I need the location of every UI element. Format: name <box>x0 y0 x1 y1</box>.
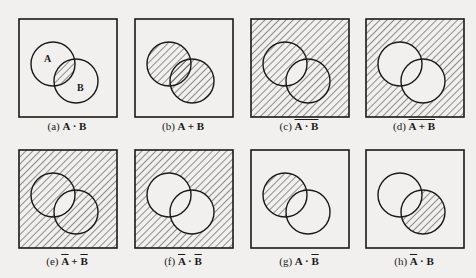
venn-svg-a: A B <box>18 18 118 118</box>
circle-label-b: B <box>77 82 84 93</box>
caption-prefix: (g) <box>279 255 295 267</box>
venn-panel-h <box>365 149 465 249</box>
venn-svg-g <box>250 149 350 249</box>
caption-expression: A + B <box>178 120 204 132</box>
caption-prefix: (e) <box>46 255 61 267</box>
caption-prefix: (a) <box>48 120 63 132</box>
venn-svg-c <box>250 18 350 118</box>
caption-prefix: (h) <box>394 255 410 267</box>
caption-prefix: (b) <box>162 120 178 132</box>
caption-prefix: (c) <box>280 120 295 132</box>
panel-caption-b: (b) A + B <box>133 120 233 132</box>
venn-panel-b <box>134 18 234 118</box>
panel-caption-g: (g) A · B <box>249 255 349 267</box>
venn-panel-f <box>134 149 234 249</box>
caption-expression: A + B <box>409 120 435 132</box>
caption-expression: A + B <box>61 255 87 267</box>
caption-expression: A · B <box>63 120 87 132</box>
venn-panel-c <box>250 18 350 118</box>
caption-prefix: (d) <box>393 120 409 132</box>
caption-expression: A · B <box>295 255 319 267</box>
caption-prefix: (f) <box>164 255 178 267</box>
panel-caption-a: (a) A · B <box>17 120 117 132</box>
venn-panel-g <box>250 149 350 249</box>
venn-panel-a: A B <box>18 18 118 118</box>
venn-svg-h <box>365 149 465 249</box>
caption-expression: A · B <box>178 255 202 267</box>
venn-svg-b <box>134 18 234 118</box>
venn-svg-d <box>365 18 465 118</box>
panel-caption-c: (c) A · B <box>249 120 349 132</box>
venn-panel-e <box>18 149 118 249</box>
panel-caption-d: (d) A + B <box>364 120 464 132</box>
caption-expression: A · B <box>410 255 434 267</box>
caption-expression: A · B <box>295 120 319 132</box>
panel-caption-f: (f) A · B <box>133 255 233 267</box>
panel-caption-e: (e) A + B <box>17 255 117 267</box>
venn-panel-d <box>365 18 465 118</box>
venn-svg-e <box>18 149 118 249</box>
circle-label-a: A <box>44 53 52 64</box>
venn-svg-f <box>134 149 234 249</box>
panel-caption-h: (h) A · B <box>364 255 464 267</box>
